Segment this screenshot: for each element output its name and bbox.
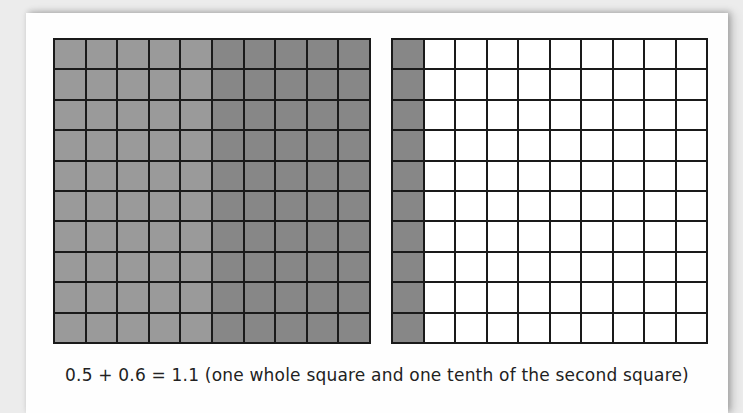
grid-cell (55, 101, 85, 129)
grid-cell (614, 222, 644, 250)
grid-cell (276, 192, 306, 220)
grid-cell (582, 162, 612, 190)
grid-cell (582, 253, 612, 281)
grid-cell (339, 283, 369, 311)
grid-cell (645, 253, 675, 281)
grid-cell (677, 131, 707, 159)
grid-cell (339, 131, 369, 159)
grid-cell (551, 40, 581, 68)
grid-cell (393, 222, 423, 250)
grid-cell (181, 131, 211, 159)
grid-cell (677, 192, 707, 220)
grid-cell (677, 70, 707, 98)
figure-panel: 0.5 + 0.6 = 1.1 (one whole square and on… (26, 13, 728, 413)
grid-cell (339, 222, 369, 250)
grid-cell (87, 253, 117, 281)
grid-cell (677, 283, 707, 311)
grid-cell (181, 283, 211, 311)
grid-cell (393, 70, 423, 98)
grid-cell (118, 131, 148, 159)
grid-cell (677, 40, 707, 68)
grid-cell (582, 131, 612, 159)
grid-cell (456, 70, 486, 98)
grid-cell (488, 192, 518, 220)
grid-cell (339, 162, 369, 190)
grid-cell (393, 192, 423, 220)
grid-cell (276, 283, 306, 311)
grid-cell (488, 253, 518, 281)
grid-cell (308, 162, 338, 190)
grid-cell (519, 101, 549, 129)
grid-cell (677, 162, 707, 190)
grid-cell (118, 283, 148, 311)
grid-cell (87, 162, 117, 190)
grid-cell (87, 192, 117, 220)
grid-cell (55, 192, 85, 220)
figure-caption: 0.5 + 0.6 = 1.1 (one whole square and on… (26, 365, 728, 385)
grid-cell (55, 131, 85, 159)
grid-cell (213, 101, 243, 129)
grid-cell (245, 314, 275, 342)
grid-cell (339, 40, 369, 68)
grid-cell (519, 283, 549, 311)
grid-cell (551, 101, 581, 129)
grid-cell (339, 192, 369, 220)
grid-cell (213, 162, 243, 190)
grid-cell (55, 162, 85, 190)
grid-cell (519, 222, 549, 250)
grid-cell (393, 101, 423, 129)
grid-cell (308, 283, 338, 311)
grid-cell (645, 40, 675, 68)
grid-cell (425, 222, 455, 250)
grid-cell (150, 253, 180, 281)
grid-cell (308, 131, 338, 159)
grid-cell (645, 314, 675, 342)
grid-cell (118, 314, 148, 342)
grid-cell (614, 283, 644, 311)
grid-cell (488, 222, 518, 250)
grid-cell (150, 70, 180, 98)
grid-cell (456, 253, 486, 281)
grid-cell (87, 70, 117, 98)
grid-cell (582, 283, 612, 311)
grid-cell (118, 70, 148, 98)
grid-cell (582, 192, 612, 220)
grid-cell (488, 70, 518, 98)
grid-cell (118, 162, 148, 190)
grid-cell (582, 222, 612, 250)
hundred-grid-first-square (53, 38, 371, 344)
grid-cell (150, 283, 180, 311)
grid-cell (118, 101, 148, 129)
grid-cell (55, 40, 85, 68)
grid-cell (181, 222, 211, 250)
grid-cell (150, 131, 180, 159)
grid-cell (488, 314, 518, 342)
grid-cell (213, 314, 243, 342)
grid-cell (519, 40, 549, 68)
grid-cell (488, 131, 518, 159)
grid-cell (425, 70, 455, 98)
grid-cell (276, 314, 306, 342)
grid-cell (87, 101, 117, 129)
grid-cell (551, 283, 581, 311)
grid-cell (488, 101, 518, 129)
grid-cell (245, 283, 275, 311)
grid-cell (551, 192, 581, 220)
grid-cell (456, 101, 486, 129)
grid-cell (614, 70, 644, 98)
grid-cell (425, 101, 455, 129)
grid-cell (245, 253, 275, 281)
grid-cell (456, 314, 486, 342)
grid-cell (339, 70, 369, 98)
grid-cell (181, 314, 211, 342)
grid-cell (181, 253, 211, 281)
grid-cell (614, 131, 644, 159)
grid-cell (519, 131, 549, 159)
grid-cell (582, 70, 612, 98)
grid-cell (456, 131, 486, 159)
grid-cell (213, 192, 243, 220)
grid-cell (245, 192, 275, 220)
grid-cell (551, 253, 581, 281)
grid-cell (87, 131, 117, 159)
grid-cell (276, 222, 306, 250)
